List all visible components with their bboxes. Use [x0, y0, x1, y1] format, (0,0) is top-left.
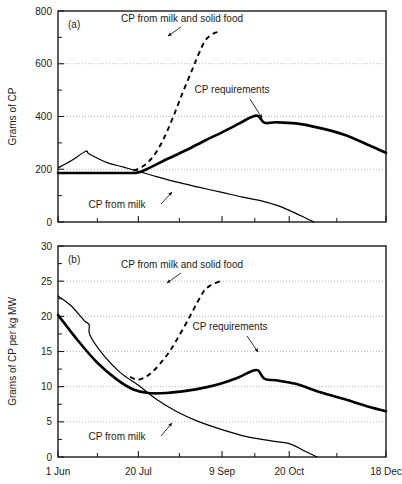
panel-b: 0510152025301 Jun20 Jul9 Sep20 Oct18 Dec… [7, 241, 402, 477]
y-tick-label: 5 [46, 416, 52, 427]
panel-a: 0200400600800Grams of CP(a)CP from milk … [7, 6, 386, 228]
y-axis-title: Grams of CP [7, 87, 18, 145]
y-tick-label: 25 [41, 276, 53, 287]
y-tick-label: 800 [35, 6, 52, 17]
x-tick-label: 9 Sep [209, 466, 236, 477]
y-tick-label: 400 [35, 111, 52, 122]
annotation-label: CP from milk [88, 431, 146, 442]
plot-frame [58, 246, 386, 457]
chart-svg: 0200400600800Grams of CP(a)CP from milk … [0, 0, 402, 484]
y-tick-label: 20 [41, 311, 53, 322]
series-cp-from-milk-and-solid-food [133, 32, 220, 171]
annotation-leader [161, 423, 172, 436]
annotation-leader [161, 192, 172, 204]
y-tick-label: 10 [41, 381, 53, 392]
series-cp-requirements [58, 116, 386, 173]
x-tick-label: 1 Jun [46, 466, 70, 477]
plot-frame [58, 11, 386, 222]
y-tick-label: 600 [35, 58, 52, 69]
panel-label: (b) [68, 254, 80, 265]
series-cp-from-milk [58, 151, 314, 222]
annotation-leader [168, 27, 181, 36]
x-tick-label: 20 Jul [125, 466, 152, 477]
y-tick-label: 0 [46, 217, 52, 228]
x-tick-label: 18 Dec [370, 466, 402, 477]
annotation-label: CP from milk and solid food [121, 13, 243, 24]
annotation-leader [247, 336, 258, 352]
panel-label: (a) [68, 19, 80, 30]
annotation-label: CP from milk and solid food [121, 259, 243, 270]
x-tick-label: 20 Oct [275, 466, 305, 477]
annotation-label: CP requirements [195, 84, 270, 95]
figure-container: 0200400600800Grams of CP(a)CP from milk … [0, 0, 402, 484]
y-tick-label: 15 [41, 346, 53, 357]
annotation-label: CP from milk [88, 199, 146, 210]
y-axis-title: Grams of CP per kg MW [7, 297, 18, 406]
y-tick-label: 200 [35, 164, 52, 175]
y-tick-label: 0 [46, 452, 52, 463]
annotation-label: CP requirements [193, 321, 268, 332]
y-tick-label: 30 [41, 241, 53, 252]
